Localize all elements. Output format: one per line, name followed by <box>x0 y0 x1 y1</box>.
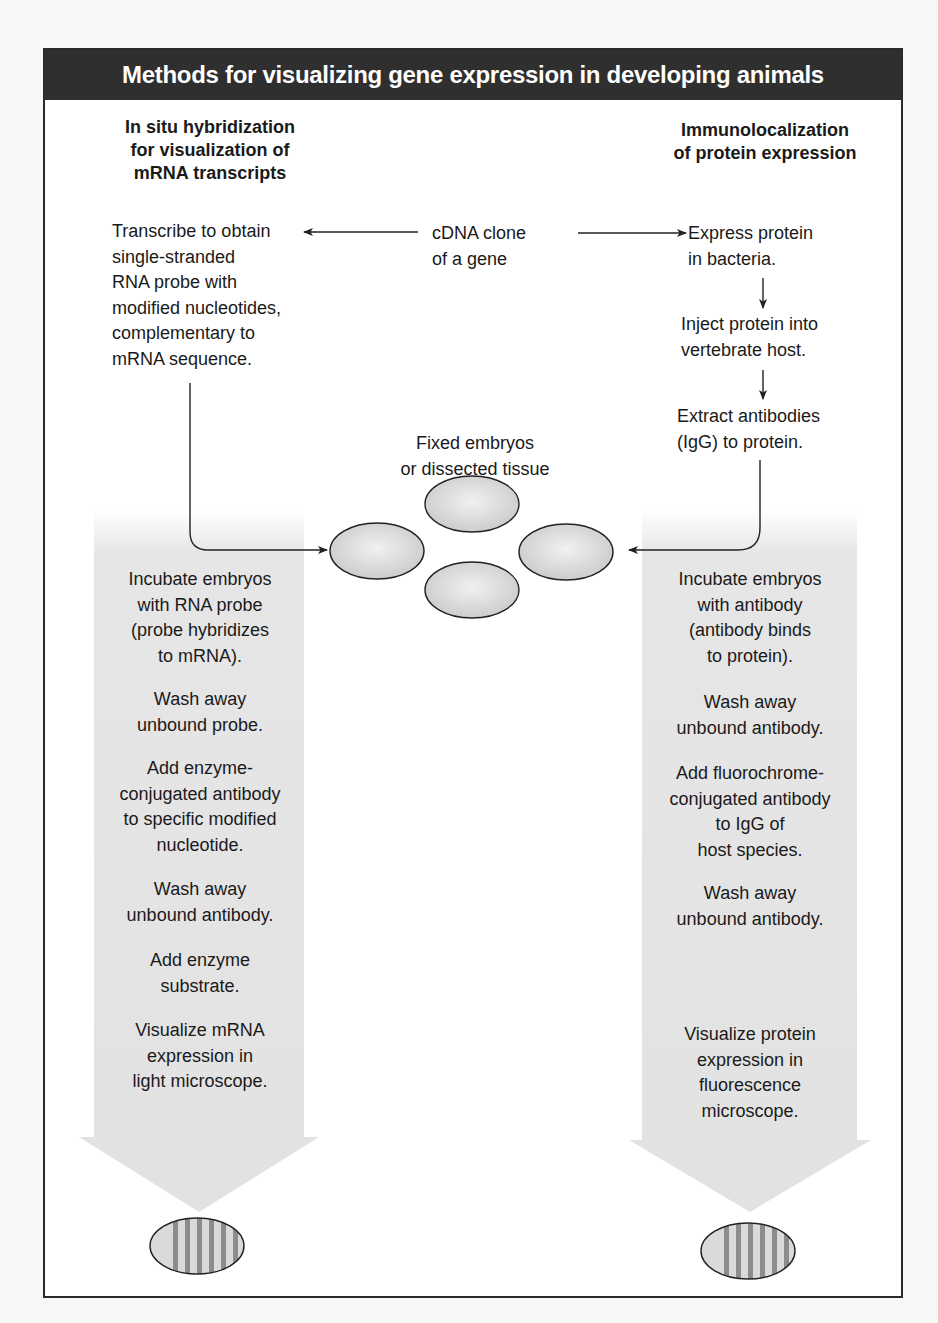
left-step-visualize: Visualize mRNA expression in light micro… <box>95 1018 305 1095</box>
right-step-incubate: Incubate embryos with antibody (antibody… <box>645 567 855 669</box>
left-column-heading: In situ hybridization for visualization … <box>85 116 335 185</box>
inject-protein-step: Inject protein into vertebrate host. <box>681 312 871 363</box>
left-step-wash-antibody: Wash away unbound antibody. <box>85 877 315 928</box>
left-step-substrate: Add enzyme substrate. <box>95 948 305 999</box>
cdna-clone-label: cDNA clone of a gene <box>432 221 572 272</box>
right-result-embryo <box>701 1215 795 1295</box>
right-step-wash-antibody-2: Wash away unbound antibody. <box>640 881 860 932</box>
express-protein-step: Express protein in bacteria. <box>688 221 868 272</box>
fixed-embryos-label: Fixed embryos or dissected tissue <box>375 431 575 482</box>
transcribe-probe-step: Transcribe to obtain single-stranded RNA… <box>112 219 332 372</box>
right-column-heading: Immunolocalization of protein expression <box>645 119 885 165</box>
figure-panel: Methods for visualizing gene expression … <box>43 48 903 1298</box>
left-result-embryo <box>150 1210 244 1290</box>
left-step-add-antibody: Add enzyme- conjugated antibody to speci… <box>85 756 315 858</box>
left-step-wash-probe: Wash away unbound probe. <box>95 687 305 738</box>
right-step-visualize: Visualize protein expression in fluoresc… <box>645 1022 855 1124</box>
right-step-add-fluorochrome: Add fluorochrome- conjugated antibody to… <box>635 761 865 863</box>
right-step-wash-antibody-1: Wash away unbound antibody. <box>640 690 860 741</box>
extract-antibodies-step: Extract antibodies (IgG) to protein. <box>677 404 867 455</box>
fixed-embryos-group <box>330 476 613 618</box>
left-step-incubate: Incubate embryos with RNA probe (probe h… <box>95 567 305 669</box>
